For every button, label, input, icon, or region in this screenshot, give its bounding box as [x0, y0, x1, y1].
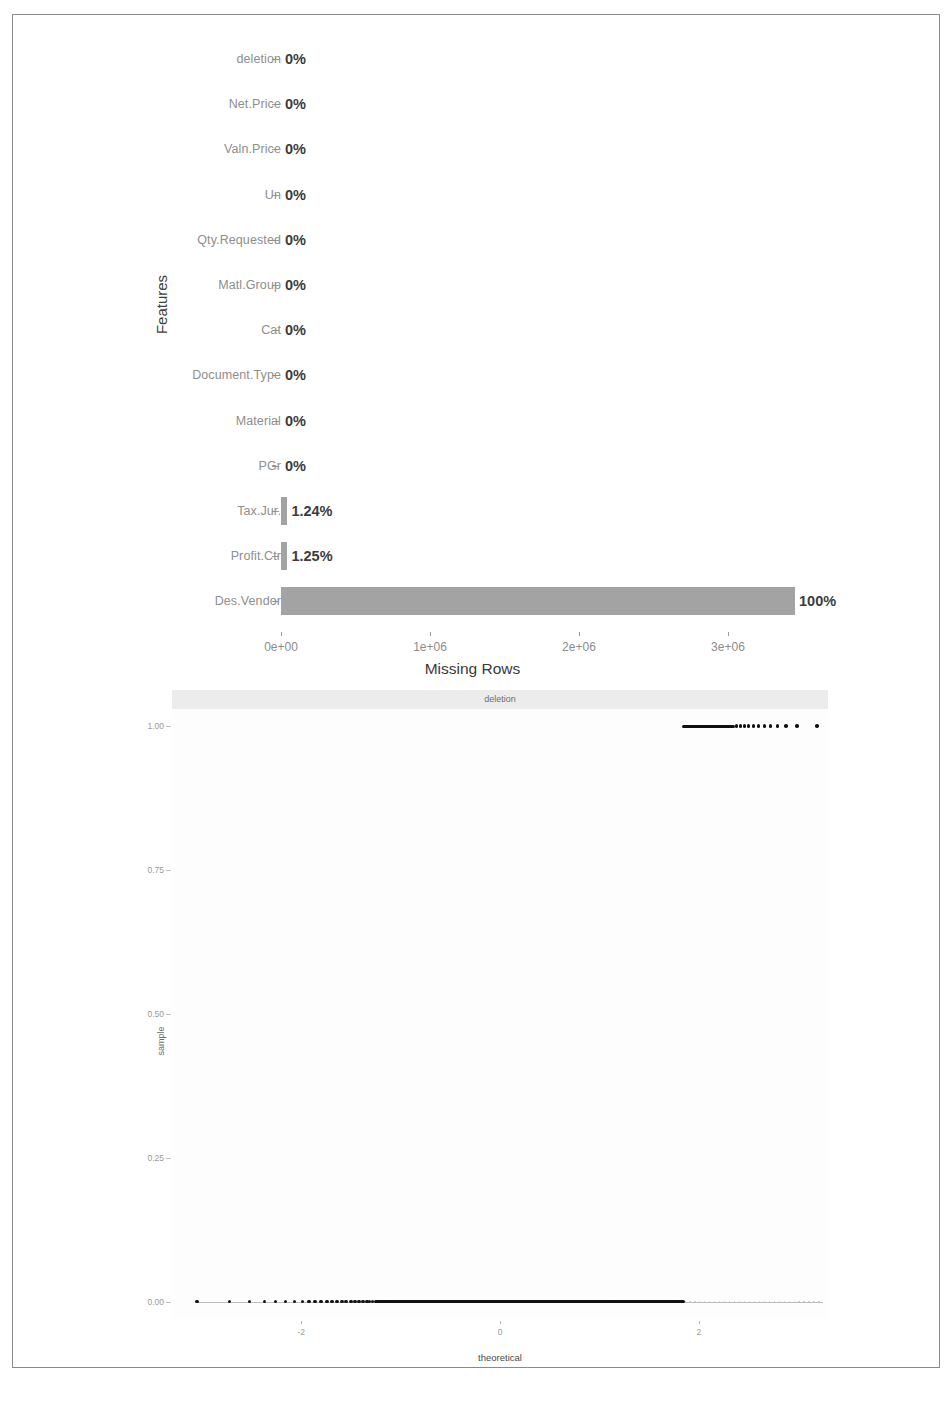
qq-x-axis-title: theoretical [172, 1352, 828, 1363]
missing-chart-row: Matl.Group–0% [0, 262, 945, 308]
missing-chart-x-tick-label: 1e+06 [413, 640, 447, 654]
missing-chart-row: Profit.Ctr–1.25% [0, 533, 945, 579]
missing-chart-row: deletion–0% [0, 36, 945, 82]
qq-data-point [263, 1300, 266, 1303]
qq-data-point [293, 1300, 296, 1303]
qq-data-point [228, 1300, 231, 1303]
missing-chart-row-tick: – [272, 36, 279, 82]
qq-data-point [795, 724, 799, 728]
qq-data-point [344, 1300, 347, 1303]
missing-chart-x-axis-title: Missing Rows [0, 660, 945, 678]
missing-chart-x-tick-mark [579, 632, 580, 636]
missing-chart-row-tick: – [272, 307, 279, 353]
missing-chart-row-tick: – [272, 443, 279, 489]
missing-chart-row: PGr–0% [0, 443, 945, 489]
qq-y-tick-label: 0.25 [147, 1153, 164, 1163]
missing-chart-row: Tax.Jur.–1.24% [0, 488, 945, 534]
missing-chart-x-tick-label: 2e+06 [562, 640, 596, 654]
missing-chart-x-tick-mark [281, 632, 282, 636]
missing-chart-bar-value: 0% [285, 398, 306, 444]
missing-chart-bar-value: 0% [285, 262, 306, 308]
missing-chart-x-tick-mark [430, 632, 431, 636]
missing-chart-x-axis: 0e+001e+062e+063e+06 Missing Rows [0, 620, 945, 690]
qq-facet-strip-label: deletion [172, 690, 828, 709]
qq-data-point [784, 724, 788, 728]
missing-chart-row: Qty.Requested–0% [0, 217, 945, 263]
missing-chart-row-tick: – [272, 398, 279, 444]
missing-chart-bar-value: 1.25% [291, 533, 332, 579]
qq-data-point [349, 1300, 352, 1303]
qq-y-tick-mark: – [166, 1297, 171, 1307]
qq-data-point [195, 1300, 198, 1303]
missing-chart-row-label: Qty.Requested [197, 217, 281, 263]
missing-chart-x-tick-label: 0e+00 [264, 640, 298, 654]
missing-chart-bar-value: 0% [285, 36, 306, 82]
qq-x-tick-label: 2 [696, 1327, 701, 1337]
missing-chart-row-tick: – [272, 126, 279, 172]
qq-data-point [371, 1300, 374, 1303]
qq-data-point [763, 724, 767, 728]
qq-data-point [248, 1300, 251, 1303]
qq-data-point [815, 724, 819, 728]
missing-chart-bar [281, 542, 287, 570]
qq-y-tick-label: 0.00 [147, 1297, 164, 1307]
missing-chart-bar [281, 587, 795, 615]
qq-data-point [325, 1300, 328, 1303]
missing-chart-bar-value: 100% [799, 578, 836, 624]
qq-y-tick-mark: – [166, 1153, 171, 1163]
missing-chart-bar-value: 0% [285, 352, 306, 398]
missing-chart-row: Cat–0% [0, 307, 945, 353]
missing-chart-row: Un–0% [0, 172, 945, 218]
qq-y-tick-mark: – [166, 721, 171, 731]
qq-data-point [274, 1300, 277, 1303]
missing-chart-row-tick: – [272, 262, 279, 308]
qq-data-point [307, 1300, 310, 1303]
missing-chart-row: Material–0% [0, 398, 945, 444]
missing-chart-row-label: Document.Type [192, 352, 281, 398]
qq-y-tick-label: 0.75 [147, 865, 164, 875]
qq-data-point [735, 724, 739, 728]
qq-y-tick-mark: – [166, 1009, 171, 1019]
missing-chart-row-tick: – [272, 172, 279, 218]
qq-data-point [743, 724, 747, 728]
qq-data-point [747, 724, 751, 728]
missing-chart-bar [281, 497, 287, 525]
qq-data-point [776, 724, 780, 728]
qq-data-point [353, 1300, 356, 1303]
qq-data-point [357, 1300, 360, 1303]
qq-data-point [319, 1300, 322, 1303]
missing-chart-bar-value: 0% [285, 172, 306, 218]
missing-chart-x-tick-mark [728, 632, 729, 636]
missing-chart-bar-value: 0% [285, 126, 306, 172]
qq-x-tick-label: -2 [297, 1327, 305, 1337]
missing-chart-row: Net.Price–0% [0, 81, 945, 127]
qq-plot-panel [172, 709, 828, 1319]
qq-data-point [284, 1300, 287, 1303]
missing-chart-bar-value: 0% [285, 217, 306, 263]
qq-data-point [769, 724, 773, 728]
qq-data-point [752, 724, 756, 728]
missing-values-bar-chart: Features deletion–0%Net.Price–0%Valn.Pri… [0, 0, 945, 690]
qq-x-tick-mark [500, 1321, 501, 1324]
qq-data-point [361, 1300, 364, 1303]
qq-data-point [330, 1300, 333, 1303]
missing-chart-row-tick: – [272, 488, 279, 534]
missing-chart-bar-value: 0% [285, 81, 306, 127]
missing-chart-row: Des.Vendor–100% [0, 578, 945, 624]
missing-chart-bar-value: 0% [285, 443, 306, 489]
missing-chart-bar-value: 0% [285, 307, 306, 353]
missing-chart-row-tick: – [272, 217, 279, 263]
qq-plot: deletion 1.00–0.75–0.50–0.25–0.00– -202 … [0, 688, 945, 1388]
missing-chart-row-tick: – [272, 81, 279, 127]
missing-chart-row-tick: – [272, 533, 279, 579]
missing-chart-bar-value: 1.24% [291, 488, 332, 534]
qq-data-point [739, 724, 743, 728]
qq-x-tick-mark [699, 1321, 700, 1324]
missing-chart-row-tick: – [272, 578, 279, 624]
qq-y-tick-mark: – [166, 865, 171, 875]
qq-data-point [340, 1300, 343, 1303]
qq-x-tick-mark [301, 1321, 302, 1324]
qq-y-tick-label: 1.00 [147, 721, 164, 731]
missing-chart-x-tick-label: 3e+06 [711, 640, 745, 654]
qq-data-point [335, 1300, 338, 1303]
